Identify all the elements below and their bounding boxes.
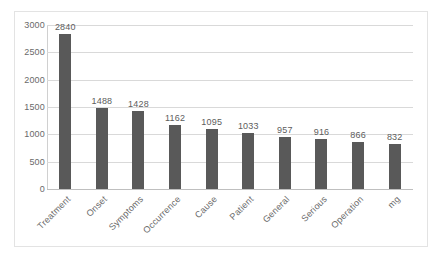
x-axis-category-labels: TreatmentOnsetSymptomsOccurrenceCausePat… [47, 190, 413, 246]
x-axis-category-label: Patient [227, 194, 255, 222]
bar-value-label: 1428 [128, 99, 149, 109]
bar-slot: 1428 [120, 25, 157, 189]
bar[interactable] [242, 133, 254, 189]
x-label-slot: Occurrence [157, 190, 194, 246]
y-axis-tick-label: 2000 [5, 75, 45, 85]
bar-slot: 1033 [230, 25, 267, 189]
bar-slot: 2840 [47, 25, 84, 189]
bar-slot: 1488 [84, 25, 121, 189]
chart-container: 050010001500200025003000 284014881428116… [14, 11, 428, 247]
y-axis-tick-label: 0 [5, 184, 45, 194]
bar-slot: 1162 [157, 25, 194, 189]
y-axis-tick-label: 500 [5, 157, 45, 167]
bar[interactable] [352, 142, 364, 189]
bar[interactable] [96, 108, 108, 189]
bar[interactable] [315, 139, 327, 189]
bar-slot: 832 [376, 25, 413, 189]
x-axis-category-label: mg [386, 194, 402, 210]
bar-value-label: 1162 [165, 113, 185, 123]
bar[interactable] [169, 125, 181, 189]
x-axis-category-label: General [261, 194, 292, 225]
bar[interactable] [206, 129, 218, 189]
bar-value-label: 2840 [55, 22, 76, 32]
x-axis-category-label: Treatment [35, 194, 72, 231]
bar-slot: 866 [340, 25, 377, 189]
x-label-slot: mg [376, 190, 413, 246]
y-axis-tick-label: 1000 [5, 129, 45, 139]
y-axis-tick-labels: 050010001500200025003000 [1, 25, 45, 189]
x-axis-category-label: Serious [299, 194, 329, 224]
x-label-slot: General [267, 190, 304, 246]
bar-value-label: 957 [277, 125, 293, 135]
bar-slot: 916 [303, 25, 340, 189]
bar-value-label: 1488 [91, 96, 112, 106]
bar-value-label: 916 [314, 127, 330, 137]
bar-slot: 957 [267, 25, 304, 189]
x-label-slot: Treatment [47, 190, 84, 246]
plot-area: 284014881428116210951033957916866832 [47, 25, 413, 189]
x-axis-category-label: Onset [84, 194, 109, 219]
bar-value-label: 1033 [238, 121, 259, 131]
x-label-slot: Cause [193, 190, 230, 246]
bar[interactable] [132, 111, 144, 189]
y-axis-tick-label: 2500 [5, 47, 45, 57]
y-axis-tick-label: 3000 [5, 20, 45, 30]
bar[interactable] [279, 137, 291, 189]
bar-value-label: 832 [387, 132, 403, 142]
x-label-slot: Operation [340, 190, 377, 246]
x-axis-category-label: Cause [193, 194, 219, 220]
bar-slot: 1095 [193, 25, 230, 189]
bar[interactable] [389, 144, 401, 189]
y-axis-tick-label: 1500 [5, 102, 45, 112]
bar-value-label: 866 [350, 130, 366, 140]
bar[interactable] [59, 34, 71, 189]
bar-value-label: 1095 [201, 117, 222, 127]
